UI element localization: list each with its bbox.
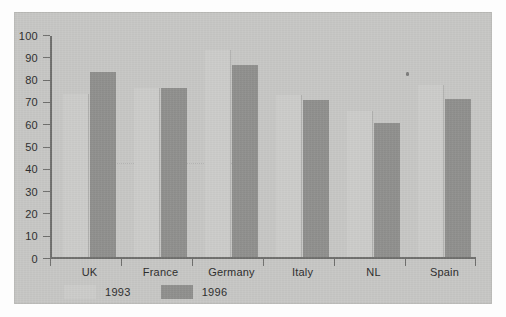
y-tick-label: 30 <box>25 186 38 198</box>
bar-germany-1993[interactable] <box>205 50 231 257</box>
y-tick-label: 80 <box>25 74 38 86</box>
bar-spain-1996[interactable] <box>445 99 471 257</box>
y-tick: 80 <box>43 80 50 81</box>
x-tick <box>121 259 122 266</box>
bar-germany-1996[interactable] <box>232 65 258 257</box>
x-axis-label-germany: Germany <box>192 266 272 278</box>
y-tick: 50 <box>43 147 50 148</box>
legend-label-1996: 1996 <box>202 286 228 298</box>
y-tick-label: 90 <box>25 52 38 64</box>
bar-group: France <box>134 34 187 257</box>
bar-nl-1996[interactable] <box>374 123 400 257</box>
y-tick-label: 70 <box>25 96 38 108</box>
legend-item-1993[interactable]: 1993 <box>64 285 161 299</box>
legend-item-1996[interactable]: 1996 <box>161 285 258 299</box>
y-tick-label: 50 <box>25 141 38 153</box>
chart-panel: 1009080706050403020100 UKFranceGermanyIt… <box>14 12 492 304</box>
y-tick: 60 <box>43 124 50 125</box>
bar-group: Italy <box>276 34 329 257</box>
x-tick <box>405 259 406 266</box>
x-tick <box>334 259 335 266</box>
legend-swatch-dark-gray <box>161 285 193 299</box>
bar-nl-1993[interactable] <box>347 111 373 257</box>
y-tick: 40 <box>43 169 50 170</box>
x-tick <box>50 259 51 266</box>
bar-group: NL <box>347 34 400 257</box>
x-axis-label-italy: Italy <box>263 266 343 278</box>
y-tick-label: 60 <box>25 119 38 131</box>
y-axis-line <box>50 36 52 259</box>
x-tick <box>192 259 193 266</box>
bar-group: Spain <box>418 34 471 257</box>
bar-uk-1996[interactable] <box>90 72 116 257</box>
chart-screenshot: 1009080706050403020100 UKFranceGermanyIt… <box>0 0 506 317</box>
bar-france-1996[interactable] <box>161 88 187 257</box>
x-tick <box>263 259 264 266</box>
y-tick-label: 40 <box>25 163 38 175</box>
y-tick: 30 <box>43 191 50 192</box>
y-tick: 10 <box>43 236 50 237</box>
bar-italy-1996[interactable] <box>303 100 329 257</box>
x-axis-label-france: France <box>121 266 201 278</box>
bar-group: Germany <box>205 34 258 257</box>
x-axis-label-nl: NL <box>334 266 414 278</box>
bar-france-1993[interactable] <box>134 88 160 257</box>
bar-spain-1993[interactable] <box>418 85 444 257</box>
legend-label-1993: 1993 <box>105 286 131 298</box>
y-tick: 70 <box>43 102 50 103</box>
chart-legend: 19931996 <box>64 285 257 299</box>
legend-swatch-light-gray <box>64 285 96 299</box>
y-tick: 0 <box>43 258 50 259</box>
y-tick-label: 100 <box>19 30 38 42</box>
bar-uk-1993[interactable] <box>63 94 89 257</box>
y-tick: 20 <box>43 213 50 214</box>
x-axis-label-spain: Spain <box>405 266 485 278</box>
y-tick-label: 10 <box>25 230 38 242</box>
bar-italy-1993[interactable] <box>276 95 302 257</box>
x-tick <box>475 259 476 266</box>
y-tick-label: 20 <box>25 208 38 220</box>
speck-artifact <box>406 72 409 76</box>
x-axis-label-uk: UK <box>50 266 130 278</box>
bar-group: UK <box>63 34 116 257</box>
y-tick: 90 <box>43 57 50 58</box>
plot-area: 1009080706050403020100 UKFranceGermanyIt… <box>50 36 476 259</box>
y-tick-label: 0 <box>32 253 38 265</box>
y-tick: 100 <box>43 35 50 36</box>
